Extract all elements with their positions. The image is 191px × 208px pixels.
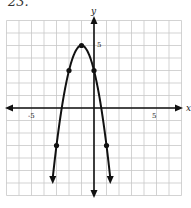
y-axis-up-arrow-icon <box>91 16 98 24</box>
axes: x y -5 5 5 <box>5 6 191 198</box>
data-point <box>91 68 96 73</box>
data-point <box>66 68 71 73</box>
data-point <box>54 143 59 148</box>
data-point <box>104 143 109 148</box>
x-tick-label-neg5: -5 <box>28 112 35 120</box>
y-axis-down-arrow-icon <box>91 190 98 198</box>
y-tick-label-5: 5 <box>97 41 101 49</box>
x-tick-label-5: 5 <box>152 112 156 120</box>
x-axis-label: x <box>186 103 191 113</box>
y-axis-label: y <box>90 6 97 16</box>
coordinate-graph: x y -5 5 5 <box>0 0 191 208</box>
data-point <box>79 43 84 48</box>
